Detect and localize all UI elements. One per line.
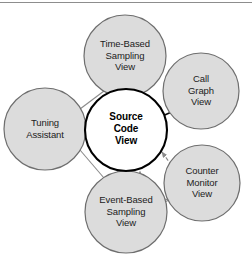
node-tuning-assistant[interactable] [4,88,86,170]
node-time-based-sampling-view[interactable] [84,15,166,97]
node-source-code-view[interactable] [85,89,167,171]
node-event-based-sampling-view[interactable] [85,171,167,253]
node-call-graph-view[interactable] [163,53,239,129]
diagram-svg [0,0,252,259]
node-layer [4,15,240,253]
diagram-canvas: Time-Based Sampling View Call Graph View… [0,0,252,259]
node-counter-monitor-view[interactable] [164,145,240,221]
